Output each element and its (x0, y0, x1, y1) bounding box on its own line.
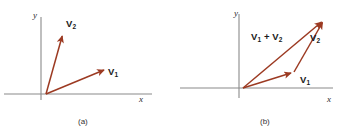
panel-a-graphic (0, 0, 178, 137)
panel-b-v2-label: V2 (310, 33, 320, 43)
panel-b-sum-label-v1-sub: 1 (257, 36, 261, 43)
panel-a: y x V2 V1 (a) (0, 0, 178, 137)
panel-b-vector-v2 (294, 23, 323, 73)
panel-b-vector-v1 (243, 73, 291, 88)
panel-a-caption: (a) (78, 118, 88, 126)
panel-a-v2-label: V2 (66, 19, 76, 29)
panel-b: y x V1 + V2 V2 V1 (b) (178, 0, 356, 137)
panel-a-vector-v2 (46, 36, 62, 94)
vector-addition-figure: y x V2 V1 (a) y x V1 + V2 V2 V1 (0, 0, 356, 137)
panel-b-sum-label-v2-sub: 2 (279, 36, 283, 43)
panel-b-v1-label-sub: 1 (306, 79, 310, 86)
panel-b-sum-label-plus: + V (261, 31, 279, 42)
panel-b-v2-label-sub: 2 (316, 37, 320, 44)
panel-b-caption: (b) (260, 118, 270, 126)
panel-b-y-axis-label: y (234, 9, 238, 18)
panel-a-v1-label-sub: 1 (114, 71, 118, 78)
panel-b-v1-label: V1 (300, 75, 310, 85)
panel-a-x-axis-label: x (139, 95, 143, 104)
panel-b-x-axis-label: x (327, 95, 331, 104)
panel-a-vector-v1 (46, 70, 104, 94)
panel-a-v1-label: V1 (108, 67, 118, 77)
panel-a-v2-label-sub: 2 (72, 23, 76, 30)
panel-a-y-axis-label: y (33, 11, 37, 20)
panel-b-sum-label: V1 + V2 (251, 32, 282, 42)
